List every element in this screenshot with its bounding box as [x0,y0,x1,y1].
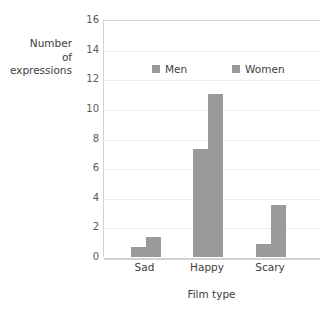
x-axis-title: Film type [103,288,320,300]
bar-chart-figure: Number of expressions 0246810121416 Men … [0,0,320,310]
legend-label-men: Men [165,63,187,75]
legend-entry-men: Men [152,63,187,75]
legend-label-women: Women [245,63,285,75]
x-tick-label-happy: Happy [177,261,237,273]
x-tick-label-scary: Scary [240,261,300,273]
legend-swatch-men-icon [152,65,160,73]
x-tick-label-sad: Sad [115,261,175,273]
legend-entry-women: Women [232,63,285,75]
legend-swatch-women-icon [232,65,240,73]
